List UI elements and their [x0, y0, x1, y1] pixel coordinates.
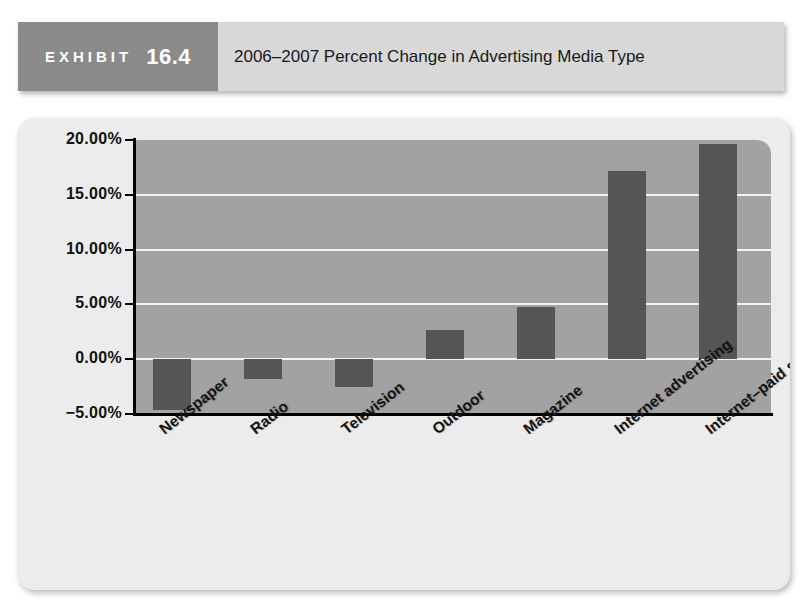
y-axis-tick — [125, 139, 133, 141]
bar — [699, 144, 737, 359]
y-axis-tick-label: 5.00% — [22, 294, 122, 312]
bar — [244, 359, 282, 379]
y-axis-tick — [125, 249, 133, 251]
bar — [335, 359, 373, 386]
bar — [517, 307, 555, 360]
gridline — [135, 194, 771, 196]
y-axis-tick — [125, 194, 133, 196]
exhibit-header: EXHIBIT 16.4 2006–2007 Percent Change in… — [18, 22, 784, 91]
y-axis-tick-label: 15.00% — [22, 185, 122, 203]
exhibit-label: EXHIBIT — [45, 48, 132, 65]
y-axis-line — [133, 138, 136, 416]
y-axis-tick — [125, 358, 133, 360]
exhibit-title: 2006–2007 Percent Change in Advertising … — [218, 22, 784, 91]
gridline — [135, 249, 771, 251]
bar — [426, 330, 464, 360]
y-axis-tick-label: 0.00% — [22, 349, 122, 367]
y-axis-tick-labels: 20.00%15.00%10.00%5.00%0.00%−5.00% — [18, 118, 122, 438]
exhibit-number: 16.4 — [146, 44, 191, 70]
y-axis-tick — [125, 413, 133, 415]
exhibit-tag: EXHIBIT 16.4 — [18, 22, 218, 91]
bar — [608, 171, 646, 360]
y-axis-tick-label: 20.00% — [22, 130, 122, 148]
gridline — [135, 303, 771, 305]
y-axis-tick-label: 10.00% — [22, 240, 122, 258]
y-axis-tick-label: −5.00% — [22, 404, 122, 422]
chart-panel: 20.00%15.00%10.00%5.00%0.00%−5.00% Newsp… — [18, 118, 790, 590]
y-axis-tick — [125, 303, 133, 305]
